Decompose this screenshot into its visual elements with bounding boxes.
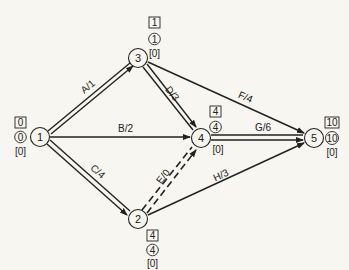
svg-text:1: 1: [37, 131, 43, 143]
svg-text:10: 10: [326, 117, 338, 128]
edge-label-d: D/3: [163, 84, 182, 103]
network-diagram: A/1 B/2 C/4 D/3 E/0 F/4 G/6 H/3 1 2 3 4 …: [0, 0, 349, 270]
svg-text:1: 1: [152, 17, 158, 28]
node-1: 1: [31, 128, 50, 147]
edge-label-h: H/3: [211, 167, 230, 184]
node-1-times: 0 0 [0]: [15, 117, 27, 157]
edge-label-f: F/4: [237, 89, 255, 105]
svg-text:3: 3: [135, 52, 141, 64]
latest-time: 0: [18, 132, 24, 143]
edge-e: [142, 147, 196, 213]
svg-text:4: 4: [213, 106, 219, 117]
slack: [0]: [15, 146, 26, 157]
svg-text:[0]: [0]: [149, 48, 160, 59]
svg-text:4: 4: [213, 122, 219, 133]
svg-text:4: 4: [198, 132, 204, 144]
svg-text:5: 5: [311, 132, 317, 144]
svg-text:4: 4: [150, 245, 156, 256]
svg-text:10: 10: [326, 133, 338, 144]
svg-text:[0]: [0]: [147, 258, 158, 269]
edge-g: [211, 135, 303, 140]
svg-text:1: 1: [152, 34, 158, 45]
node-5: 5: [305, 129, 324, 148]
node-3-times: 1 1 [0]: [149, 17, 161, 59]
edge-h: [148, 143, 304, 215]
edge-c: [47, 140, 130, 215]
node-5-times: 10 10 [0]: [325, 117, 339, 158]
svg-text:4: 4: [150, 230, 156, 241]
svg-text:2: 2: [135, 213, 141, 225]
svg-text:[0]: [0]: [212, 144, 223, 155]
node-4-times: 4 4 [0]: [210, 106, 224, 155]
node-2: 2: [129, 210, 148, 229]
edge-label-c: C/4: [88, 162, 107, 181]
edge-label-b: B/2: [118, 123, 133, 134]
edge-label-g: G/6: [255, 122, 272, 133]
node-4: 4: [192, 129, 211, 148]
earliest-time: 0: [18, 117, 24, 128]
edge-label-e: E/0: [154, 167, 172, 186]
node-2-times: 4 4 [0]: [147, 230, 159, 269]
svg-text:[0]: [0]: [326, 147, 337, 158]
node-3: 3: [129, 49, 148, 68]
